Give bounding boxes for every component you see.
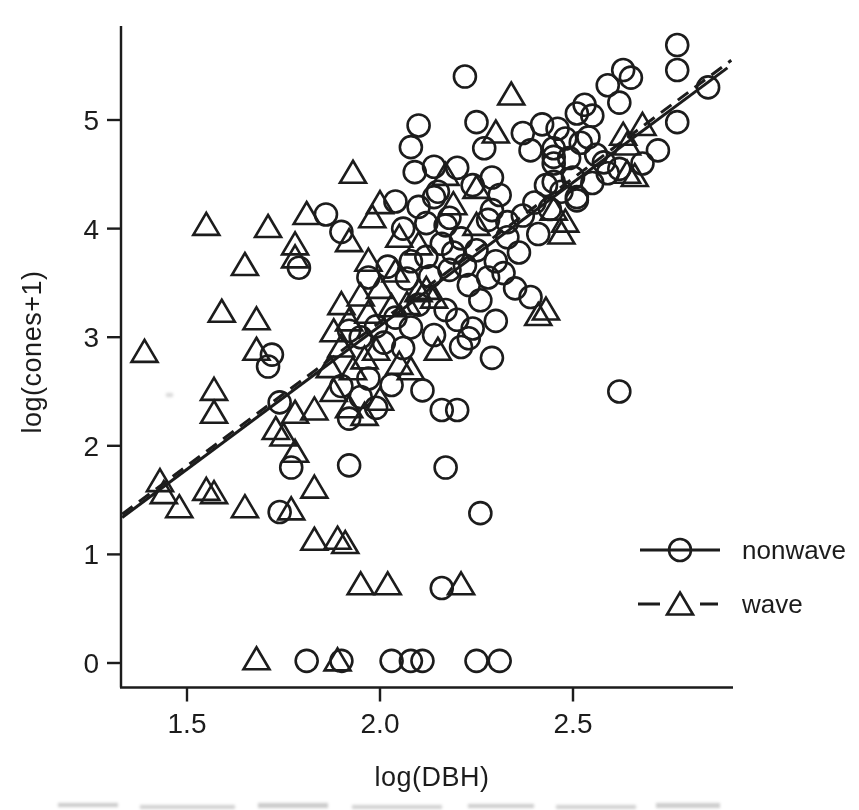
- wave-point: [243, 307, 269, 329]
- y-tick-label: 1: [83, 539, 99, 570]
- wave-point: [193, 213, 219, 235]
- wave-point: [375, 572, 401, 594]
- nonwave-point: [508, 241, 530, 263]
- nonwave-point: [666, 59, 688, 81]
- nonwave-point: [261, 344, 283, 366]
- nonwave-point: [338, 454, 360, 476]
- y-tick-label: 3: [83, 322, 99, 353]
- nonwave-point: [489, 650, 511, 672]
- wave-point: [209, 300, 235, 322]
- legend-item-nonwave: nonwave: [640, 535, 846, 565]
- y-tick-label: 5: [83, 105, 99, 136]
- nonwave-point: [647, 139, 669, 161]
- wave-point: [340, 161, 366, 183]
- plot-area: 0123451.52.02.5nonwavewave: [83, 26, 846, 739]
- wave-point: [232, 253, 258, 275]
- nonwave-point: [384, 190, 406, 212]
- y-tick-label: 4: [83, 214, 99, 245]
- y-tick-label: 2: [83, 431, 99, 462]
- legend-label: nonwave: [742, 535, 846, 565]
- wave-point: [243, 647, 269, 669]
- wave-point: [132, 340, 158, 362]
- wave-point: [348, 572, 374, 594]
- nonwave-point: [435, 457, 457, 479]
- wave-point: [232, 495, 258, 517]
- nonwave-point: [392, 218, 414, 240]
- legend: nonwavewave: [638, 535, 846, 619]
- nonwave-point: [423, 156, 445, 178]
- nonwave-point: [330, 221, 352, 243]
- nonwave-point: [520, 139, 542, 161]
- nonwave-point: [608, 92, 630, 114]
- wave-point: [255, 215, 281, 237]
- legend-triangle-icon: [667, 593, 693, 615]
- x-tick-label: 1.5: [168, 708, 207, 739]
- nonwave-point: [485, 310, 507, 332]
- x-tick-label: 2.5: [554, 708, 593, 739]
- nonwave-point: [400, 136, 422, 158]
- nonwave-point: [408, 114, 430, 136]
- wave-point: [386, 225, 412, 247]
- nonwave-point: [466, 650, 488, 672]
- wave-fit-line: [122, 60, 731, 514]
- scanned-plot-page: 0123451.52.02.5nonwavewave log(DBH) log(…: [0, 0, 859, 810]
- nonwave-point: [666, 34, 688, 56]
- legend-label: wave: [741, 589, 803, 619]
- nonwave-point: [454, 66, 476, 88]
- wave-point: [201, 378, 227, 400]
- nonwave-point: [469, 289, 491, 311]
- wave-point: [166, 495, 192, 517]
- nonwave-point: [469, 502, 491, 524]
- nonwave-point: [466, 111, 488, 133]
- nonwave-point: [570, 132, 592, 154]
- wave-point: [498, 83, 524, 105]
- series-nonwave: [257, 34, 719, 672]
- nonwave-point: [577, 126, 599, 148]
- nonwave-point: [423, 186, 445, 208]
- nonwave-point: [481, 347, 503, 369]
- y-tick-label: 0: [83, 648, 99, 679]
- wave-point: [359, 205, 385, 227]
- wave-point: [301, 528, 327, 550]
- scatter-plot: 0123451.52.02.5nonwavewave log(DBH) log(…: [0, 0, 859, 810]
- series-wave: [132, 83, 656, 671]
- nonwave-point: [411, 379, 433, 401]
- nonwave-point: [666, 111, 688, 133]
- x-tick-label: 2.0: [361, 708, 400, 739]
- nonwave-point: [431, 577, 453, 599]
- wave-point: [201, 401, 227, 423]
- nonwave-point: [608, 381, 630, 403]
- legend-item-wave: wave: [638, 589, 803, 619]
- y-axis-title: log(cones+1): [17, 271, 47, 434]
- wave-point: [398, 357, 424, 379]
- wave-point: [425, 338, 451, 360]
- nonwave-point: [400, 316, 422, 338]
- scan-artifact: [58, 393, 720, 809]
- nonwave-point: [446, 399, 468, 421]
- wave-point: [301, 476, 327, 498]
- nonwave-point: [462, 174, 484, 196]
- x-axis-title: log(DBH): [374, 762, 489, 792]
- nonwave-point: [296, 650, 318, 672]
- nonwave-point: [338, 408, 360, 430]
- nonwave-point: [527, 223, 549, 245]
- nonwave-point: [415, 246, 437, 268]
- nonwave-point: [512, 122, 534, 144]
- fit-lines: [122, 60, 731, 517]
